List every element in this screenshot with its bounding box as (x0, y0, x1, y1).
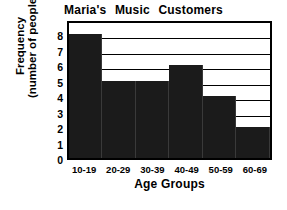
bar (136, 81, 169, 158)
bar-slot (203, 23, 236, 158)
y-tick-label: 7 (48, 47, 63, 58)
x-tick-label: 40-49 (170, 163, 204, 177)
y-tick-label: 0 (48, 155, 63, 166)
y-axis-label-line2: (number of people) (26, 0, 38, 98)
bar (169, 65, 202, 158)
bar (102, 81, 135, 158)
bar-slot (236, 23, 269, 158)
y-tick-label: 5 (48, 78, 63, 89)
x-axis-label: Age Groups (67, 177, 272, 191)
bar-slot (102, 23, 135, 158)
y-tick-label: 3 (48, 108, 63, 119)
bar-slot (136, 23, 169, 158)
x-tick-label: 30-39 (135, 163, 169, 177)
bar-series (69, 23, 270, 158)
bar-slot (69, 23, 102, 158)
plot-area (67, 21, 272, 160)
x-tick-label: 20-29 (101, 163, 135, 177)
y-tick-label: 1 (48, 139, 63, 150)
y-axis-label-line1: Frequency (14, 17, 26, 75)
y-tick-label: 2 (48, 124, 63, 135)
y-axis-tick-labels: 012345678 (48, 21, 63, 160)
bar (69, 34, 102, 158)
bar-chart-figure: Maria's Music Customers Frequency (numbe… (0, 0, 287, 210)
y-tick-label: 6 (48, 62, 63, 73)
y-tick-label: 4 (48, 93, 63, 104)
bar (203, 96, 236, 158)
x-tick-label: 60-69 (238, 163, 272, 177)
x-axis-tick-labels: 10-1920-2930-3940-4950-5960-69 (67, 163, 272, 177)
x-tick-label: 50-59 (204, 163, 238, 177)
y-tick-label: 8 (48, 31, 63, 42)
y-axis-label: Frequency (number of people) (6, 0, 46, 116)
x-tick-label: 10-19 (67, 163, 101, 177)
bar (236, 127, 269, 158)
bar-slot (169, 23, 202, 158)
